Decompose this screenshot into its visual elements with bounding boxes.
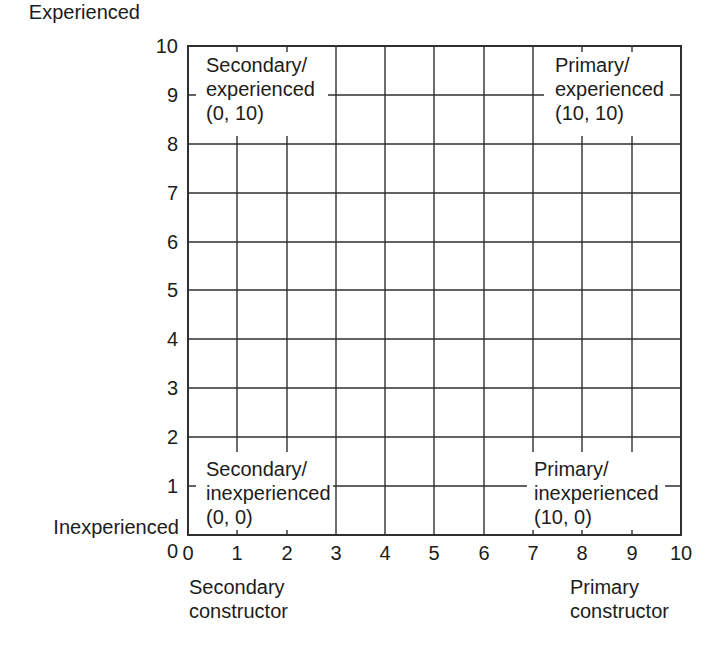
x-tick-label: 5 <box>414 541 454 565</box>
annotation-line: (10, 0) <box>534 505 659 529</box>
x-tick-label: 7 <box>513 541 553 565</box>
annotation-top-left: Secondary/ experienced (0, 10) <box>206 53 315 125</box>
annotation-bottom-left: Secondary/ inexperienced (0, 0) <box>206 457 331 529</box>
y-tick-label: 9 <box>137 83 178 107</box>
y-tick-label: 6 <box>137 230 178 254</box>
axis-title-line: constructor <box>189 599 288 623</box>
x-tick-label: 6 <box>464 541 504 565</box>
axis-title-line: Primary <box>570 575 669 599</box>
annotation-line: Secondary/ <box>206 53 315 77</box>
annotation-line: experienced <box>206 77 315 101</box>
annotation-line: Secondary/ <box>206 457 331 481</box>
x-tick-label: 4 <box>365 541 405 565</box>
annotation-line: experienced <box>555 77 664 101</box>
axis-title-line: constructor <box>570 599 669 623</box>
annotation-top-right: Primary/ experienced (10, 10) <box>555 53 664 125</box>
y-tick-label: 10 <box>137 34 178 58</box>
y-axis-bottom-label: Inexperienced <box>39 515 179 539</box>
annotation-bottom-right: Primary/ inexperienced (10, 0) <box>534 457 659 529</box>
x-tick-label: 0 <box>168 541 208 565</box>
y-tick-label: 4 <box>137 327 178 351</box>
y-tick-label: 7 <box>137 181 178 205</box>
axis-title-line: Secondary <box>189 575 288 599</box>
y-tick-label: 5 <box>137 278 178 302</box>
annotation-line: (0, 10) <box>206 101 315 125</box>
x-tick-label: 1 <box>217 541 257 565</box>
y-tick-label: 8 <box>137 132 178 156</box>
y-axis-top-label: Experienced <box>0 0 140 24</box>
x-tick-label: 8 <box>562 541 602 565</box>
annotation-line: (0, 0) <box>206 505 331 529</box>
annotation-line: (10, 10) <box>555 101 664 125</box>
x-axis-title-left: Secondary constructor <box>189 575 288 623</box>
x-tick-label: 3 <box>316 541 356 565</box>
annotation-line: inexperienced <box>534 481 659 505</box>
annotation-line: inexperienced <box>206 481 331 505</box>
x-tick-label: 10 <box>661 541 701 565</box>
annotation-line: Primary/ <box>555 53 664 77</box>
annotation-line: Primary/ <box>534 457 659 481</box>
y-tick-label: 1 <box>137 474 178 498</box>
quadrant-grid-figure: Experienced Inexperienced 10 9 8 7 6 5 4… <box>0 0 726 653</box>
y-tick-label: 2 <box>137 425 178 449</box>
y-tick-label: 3 <box>137 376 178 400</box>
x-tick-label: 2 <box>267 541 307 565</box>
x-axis-title-right: Primary constructor <box>570 575 669 623</box>
x-tick-label: 9 <box>612 541 652 565</box>
